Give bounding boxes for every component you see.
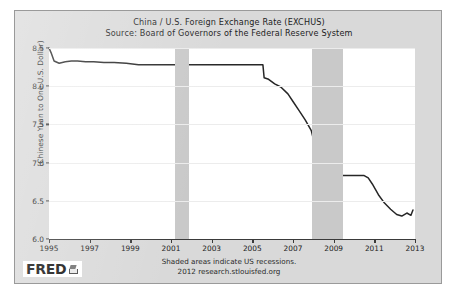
- x-tick-mark: [374, 239, 375, 243]
- x-tick-label: 1999: [121, 244, 140, 253]
- gridline-horizontal: [49, 163, 415, 164]
- fred-wordmark: FRED: [26, 262, 66, 276]
- x-tick-label: 2009: [324, 244, 343, 253]
- chart-subtitle: Source: Board of Governors of the Federa…: [15, 28, 443, 39]
- gridline-horizontal: [49, 48, 415, 49]
- gridline-horizontal: [49, 124, 415, 125]
- chart-panel: China / U.S. Foreign Exchange Rate (EXCH…: [14, 10, 442, 284]
- x-tick-mark: [334, 239, 335, 243]
- series-line-exchus: [49, 48, 413, 216]
- fred-logo: FRED: [23, 261, 82, 277]
- x-tick-mark: [293, 239, 294, 243]
- x-tick-label: 1997: [80, 244, 99, 253]
- y-tick-label: 7.5: [32, 120, 44, 129]
- x-tick-mark: [90, 239, 91, 243]
- series-exchus: [49, 48, 415, 239]
- x-tick-label: 2001: [162, 244, 181, 253]
- y-tick-label: 8.0: [32, 82, 44, 91]
- recession-band: [312, 48, 343, 239]
- x-tick-mark: [171, 239, 172, 243]
- y-tick-mark: [46, 162, 50, 163]
- fred-swoosh-icon: [69, 265, 78, 274]
- gridline-horizontal: [49, 201, 415, 202]
- chart-title: China / U.S. Foreign Exchange Rate (EXCH…: [15, 17, 443, 28]
- x-tick-label: 2003: [202, 244, 221, 253]
- chart-title-block: China / U.S. Foreign Exchange Rate (EXCH…: [15, 17, 443, 39]
- x-tick-label: 2011: [365, 244, 384, 253]
- y-tick-mark: [46, 200, 50, 201]
- recession-band: [175, 48, 189, 239]
- y-tick-mark: [46, 47, 50, 48]
- x-tick-label: 2013: [406, 244, 425, 253]
- fred-chart-screenshot: China / U.S. Foreign Exchange Rate (EXCH…: [0, 0, 454, 292]
- x-tick-mark: [49, 239, 50, 243]
- y-tick-label: 6.5: [32, 196, 44, 205]
- y-tick-mark: [46, 124, 50, 125]
- plot-area: 8.58.07.57.06.56.01995199719992001200320…: [49, 48, 415, 239]
- gridline-horizontal: [49, 86, 415, 87]
- x-tick-label: 2005: [243, 244, 262, 253]
- y-tick-mark: [46, 86, 50, 87]
- y-tick-label: 8.5: [32, 44, 44, 53]
- x-tick-mark: [252, 239, 253, 243]
- x-tick-mark: [130, 239, 131, 243]
- x-tick-mark: [212, 239, 213, 243]
- y-tick-label: 7.0: [32, 158, 44, 167]
- x-tick-mark: [415, 239, 416, 243]
- y-tick-label: 6.0: [32, 235, 44, 244]
- x-axis-line: [49, 239, 416, 240]
- x-tick-label: 1995: [40, 244, 59, 253]
- x-tick-label: 2007: [284, 244, 303, 253]
